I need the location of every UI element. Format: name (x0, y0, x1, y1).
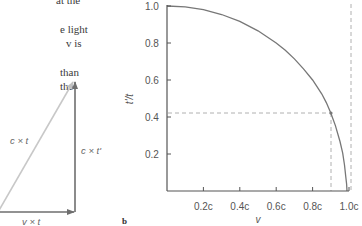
x-tick-label: 1.0c (340, 201, 359, 212)
x-axis-label: v (256, 214, 262, 225)
dilation-curve (167, 6, 347, 191)
figure: c × t c × t' v × t b (0, 0, 362, 226)
x-tick-label: 0.4c (230, 201, 249, 212)
y-tick-label: 1.0 (145, 1, 159, 12)
y-axis-label: t'/t (124, 93, 135, 104)
time-dilation-chart: 1.0 0.8 0.6 0.4 0.2 0.2c 0.4c 0.6c 0.8c … (124, 1, 358, 225)
y-tick-label: 0.6 (145, 75, 159, 86)
highlight-point (329, 111, 332, 114)
panel-label: b (122, 216, 127, 226)
x-tick-label: 0.6c (267, 201, 286, 212)
horizontal-label: v × t (22, 216, 41, 226)
vector-triangle-diagram: c × t c × t' v × t (0, 82, 102, 226)
y-tick-label: 0.2 (145, 149, 159, 160)
y-ticks (167, 6, 171, 154)
x-tick-label: 0.8c (303, 201, 322, 212)
hypotenuse-vector (0, 82, 73, 212)
hypotenuse-label: c × t (10, 135, 29, 146)
y-tick-label: 0.8 (145, 38, 159, 49)
x-tick-label: 0.2c (194, 201, 213, 212)
vertical-label: c × t' (81, 145, 102, 156)
y-tick-label: 0.4 (145, 112, 159, 123)
